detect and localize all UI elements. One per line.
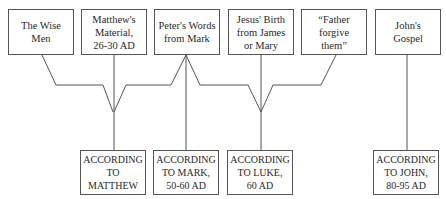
connector-wise-men-to-matthew bbox=[42, 55, 113, 112]
gospel-box-john: ACCORDING TO JOHN, 80-95 AD bbox=[373, 150, 439, 195]
connector-peter-to-luke bbox=[186, 55, 261, 112]
source-box-jesus-birth: Jesus' Birth from James or Mary bbox=[228, 9, 294, 55]
source-box-matthews-material: Matthew's Material, 26-30 AD bbox=[81, 9, 147, 55]
source-box-wise-men: The Wise Men bbox=[8, 9, 74, 55]
gospel-box-luke: ACCORDING TO LUKE, 60 AD bbox=[227, 150, 293, 195]
source-box-peters-words: Peter's Words from Mark bbox=[154, 9, 220, 55]
gospel-box-mark: ACCORDING TO MARK, 50-60 AD bbox=[153, 150, 219, 195]
source-box-johns-gospel: John's Gospel bbox=[375, 9, 441, 55]
gospel-box-matthew: ACCORDING TO MATTHEW bbox=[80, 150, 146, 195]
connector-peter-to-matthew bbox=[114, 55, 186, 112]
connector-father-forgive-to-luke bbox=[261, 55, 336, 112]
source-box-father-forgive: “Father forgive them” bbox=[301, 9, 367, 55]
gospel-sources-diagram: The Wise Men Matthew's Material, 26-30 A… bbox=[0, 0, 446, 199]
